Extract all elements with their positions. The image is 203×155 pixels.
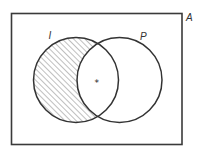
venn-diagram: A I P * <box>0 0 203 155</box>
universe-label: A <box>185 12 193 23</box>
intersection-marker: * <box>95 78 100 88</box>
set-i-label: I <box>49 30 52 41</box>
set-p-label: P <box>140 31 147 42</box>
